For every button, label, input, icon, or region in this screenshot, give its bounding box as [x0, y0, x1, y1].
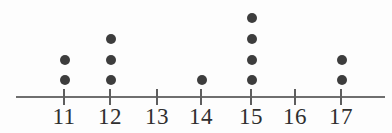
data-dot-15 [247, 34, 257, 44]
data-dot-15 [247, 55, 257, 65]
data-dot-12 [106, 75, 116, 85]
data-dot-15 [247, 75, 257, 85]
data-dot-11 [60, 55, 70, 65]
data-dot-15 [247, 13, 257, 23]
data-dot-17 [337, 55, 347, 65]
axis-label-11: 11 [42, 103, 86, 130]
data-dot-12 [106, 34, 116, 44]
data-dot-17 [337, 75, 347, 85]
axis-label-17: 17 [319, 103, 363, 130]
axis-label-14: 14 [179, 103, 223, 130]
axis-label-13: 13 [135, 103, 179, 130]
axis-label-16: 16 [273, 103, 317, 130]
data-dot-12 [106, 55, 116, 65]
data-dot-14 [197, 75, 207, 85]
dot-plot-figure: 11 12 13 14 15 16 17 [0, 0, 392, 133]
data-dot-11 [60, 75, 70, 85]
axis-label-15: 15 [229, 103, 273, 130]
axis-label-12: 12 [88, 103, 132, 130]
